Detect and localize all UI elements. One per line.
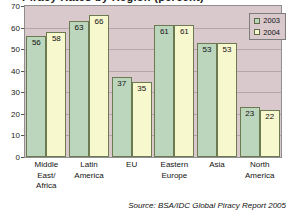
legend-item-2004[interactable]: 2004 bbox=[254, 29, 280, 37]
bar-2003: 63 bbox=[69, 21, 89, 157]
bar-2003: 56 bbox=[26, 36, 46, 157]
bar-2004: 61 bbox=[174, 25, 194, 157]
bar-group: 6366 bbox=[68, 6, 111, 157]
bar-2004: 58 bbox=[46, 32, 66, 157]
x-axis-labels: MiddleEast/AfricaLatinAmericaEUEasternEu… bbox=[25, 160, 281, 192]
x-axis-label-line: America bbox=[239, 171, 280, 182]
source-note: Source: BSA/IDC Global Piracy Report 200… bbox=[128, 201, 286, 210]
bar-value-label: 53 bbox=[203, 46, 212, 54]
bar-group: 5353 bbox=[196, 6, 239, 157]
bar-groups: 565863663735616153532322 bbox=[25, 6, 281, 157]
x-axis-label-line: EU bbox=[111, 160, 152, 171]
bar-group: 3735 bbox=[110, 6, 153, 157]
bar-2003: 23 bbox=[240, 107, 260, 157]
x-axis-label-4: Asia bbox=[196, 160, 239, 192]
y-tick-label: 10 bbox=[11, 131, 20, 140]
bar-2003: 37 bbox=[112, 77, 132, 157]
bar-2004: 22 bbox=[260, 110, 280, 157]
y-tick-label: 20 bbox=[11, 109, 20, 118]
x-axis-label-line: Middle bbox=[26, 160, 67, 171]
x-axis-label-1: LatinAmerica bbox=[68, 160, 111, 192]
legend-label: 2003 bbox=[263, 17, 280, 25]
x-axis-label-2: EU bbox=[110, 160, 153, 192]
bar-group: 5658 bbox=[25, 6, 68, 157]
bar-value-label: 56 bbox=[32, 39, 41, 47]
chart-title: Piracy Rates by Region (percent) bbox=[22, 0, 204, 3]
y-tick-label: 0 bbox=[16, 153, 20, 162]
bar-value-label: 23 bbox=[245, 110, 254, 118]
legend: 20032004 bbox=[249, 13, 286, 40]
bar-value-label: 66 bbox=[95, 18, 104, 26]
x-axis-label-line: North bbox=[239, 160, 280, 171]
x-axis-label-line: America bbox=[69, 171, 110, 182]
x-axis-label-0: MiddleEast/Africa bbox=[25, 160, 68, 192]
y-tick-label: 60 bbox=[11, 23, 20, 32]
bar-value-label: 63 bbox=[75, 24, 84, 32]
y-tick-label: 40 bbox=[11, 66, 20, 75]
bar-2003: 53 bbox=[197, 43, 217, 157]
x-axis-label-line: Latin bbox=[69, 160, 110, 171]
x-axis-label-line: Eastern bbox=[154, 160, 195, 171]
bar-value-label: 35 bbox=[137, 85, 146, 93]
bar-2004: 53 bbox=[217, 43, 237, 157]
bar-2004: 35 bbox=[132, 82, 152, 158]
y-tick-label: 70 bbox=[11, 2, 20, 11]
x-axis-label-line: East/ bbox=[26, 171, 67, 182]
y-tick-label: 50 bbox=[11, 45, 20, 54]
legend-label: 2004 bbox=[263, 29, 280, 37]
legend-swatch-icon bbox=[254, 18, 260, 24]
x-axis-label-3: EasternEurope bbox=[153, 160, 196, 192]
x-axis-label-line: Asia bbox=[197, 160, 238, 171]
legend-swatch-icon bbox=[254, 29, 260, 35]
bar-value-label: 22 bbox=[265, 113, 274, 121]
y-axis: 010203040506070 bbox=[0, 5, 24, 159]
x-axis-label-line: Europe bbox=[154, 171, 195, 182]
bar-value-label: 53 bbox=[223, 46, 232, 54]
x-axis-label-5: NorthAmerica bbox=[238, 160, 281, 192]
bar-value-label: 61 bbox=[160, 28, 169, 36]
bar-value-label: 61 bbox=[180, 28, 189, 36]
bar-value-label: 37 bbox=[117, 80, 126, 88]
bar-value-label: 58 bbox=[52, 35, 61, 43]
x-axis-label-line: Africa bbox=[26, 181, 67, 192]
bar-2003: 61 bbox=[154, 25, 174, 157]
bar-chart: Piracy Rates by Region (percent) 0102030… bbox=[0, 0, 294, 212]
y-tick-label: 30 bbox=[11, 88, 20, 97]
bar-2004: 66 bbox=[89, 15, 109, 157]
legend-item-2003[interactable]: 2003 bbox=[254, 17, 280, 25]
bar-group: 6161 bbox=[153, 6, 196, 157]
